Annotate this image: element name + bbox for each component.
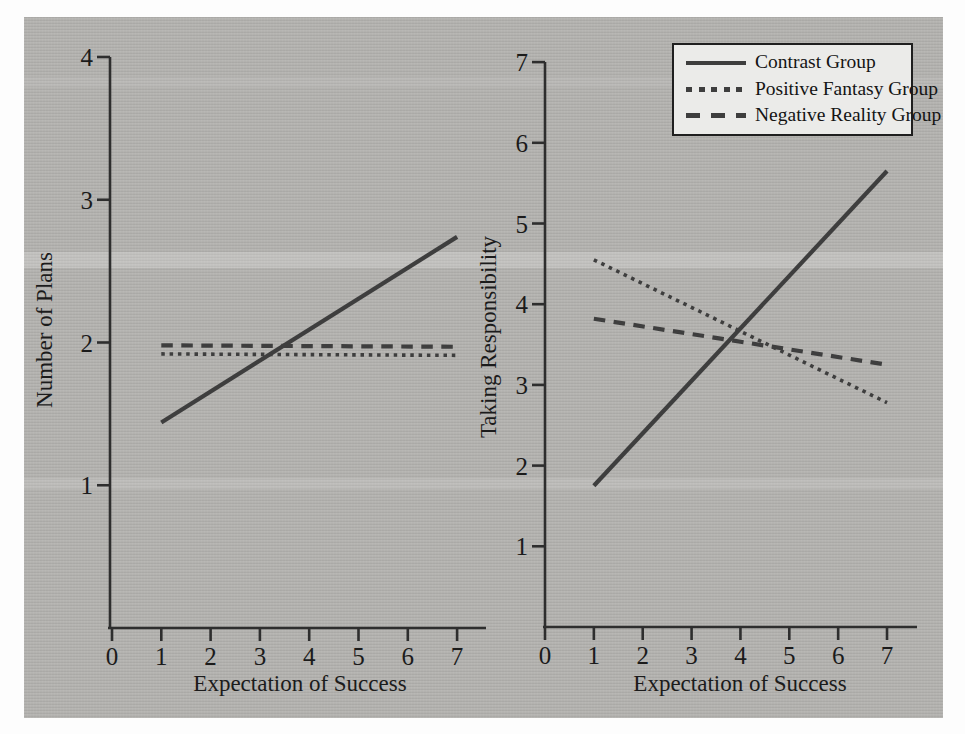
x-tick-label: 2 [636, 642, 649, 669]
x-tick-label: 0 [539, 642, 552, 669]
legend-label: Positive Fantasy Group [755, 79, 938, 101]
y-tick-label: 4 [516, 291, 529, 318]
x-tick-label: 1 [588, 642, 601, 669]
y-tick-label: 1 [516, 533, 529, 560]
dashed-series-line [161, 345, 457, 346]
figure-page: 012345671234Expectation of SuccessNumber… [0, 0, 965, 734]
x-tick-label: 5 [783, 642, 796, 669]
x-tick-label: 3 [685, 642, 698, 669]
x-tick-label: 5 [352, 643, 365, 670]
x-tick-label: 3 [254, 643, 267, 670]
legend-label: Contrast Group [755, 52, 876, 74]
dotted-line-swatch [686, 87, 746, 92]
legend-item-contrast-group: Contrast Group [686, 52, 901, 74]
legend-item-positive-fantasy-group: Positive Fantasy Group [686, 79, 901, 101]
x-axis-title: Expectation of Success [193, 671, 406, 696]
x-tick-label: 6 [402, 643, 415, 670]
y-tick-label: 2 [81, 330, 94, 357]
y-tick-label: 6 [516, 130, 529, 157]
dashed-line-swatch [686, 113, 746, 118]
legend-item-negative-reality-group: Negative Reality Group [686, 105, 901, 127]
x-axis-title: Expectation of Success [633, 671, 846, 696]
x-tick-label: 7 [451, 643, 464, 670]
chart-panel-1: 012345671234Expectation of SuccessNumber… [32, 44, 486, 696]
y-tick-label: 2 [516, 453, 529, 480]
chart-panel-2: 012345671234567Expectation of SuccessTak… [476, 49, 917, 696]
y-tick-label: 3 [81, 187, 94, 214]
y-axis-title: Taking Responsibility [476, 235, 501, 438]
y-tick-label: 3 [516, 372, 529, 399]
solid-line-swatch [686, 61, 746, 66]
y-tick-label: 4 [81, 44, 94, 71]
x-tick-label: 0 [106, 643, 119, 670]
x-tick-label: 6 [832, 642, 845, 669]
x-tick-label: 7 [881, 642, 894, 669]
x-tick-label: 1 [155, 643, 168, 670]
dotted-series-line [161, 354, 457, 355]
x-tick-label: 4 [734, 642, 747, 669]
x-tick-label: 4 [303, 643, 316, 670]
x-tick-label: 2 [204, 643, 217, 670]
legend: Contrast Group Positive Fantasy Group Ne… [672, 43, 913, 136]
legend-label: Negative Reality Group [755, 105, 941, 127]
y-tick-label: 5 [516, 211, 529, 238]
y-axis-title: Number of Plans [32, 252, 57, 408]
y-tick-label: 1 [81, 472, 94, 499]
solid-series-line [161, 237, 457, 423]
y-tick-label: 7 [516, 49, 529, 76]
solid-series-line [594, 171, 887, 486]
